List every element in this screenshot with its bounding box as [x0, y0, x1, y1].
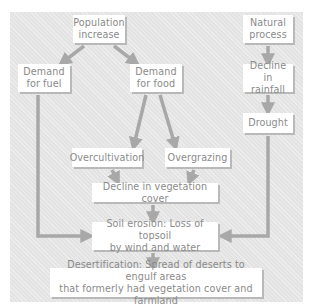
- node-demand-for-fuel: Demand for fuel: [18, 64, 70, 92]
- node-population-increase: Population increase: [73, 15, 125, 43]
- node-demand-for-food: Demand for food: [130, 64, 182, 92]
- desertification-flowchart: Population increase Natural process Dema…: [0, 0, 312, 308]
- arrow-food-to-overgrazing: [160, 95, 175, 145]
- node-soil-erosion: Soil erosion: Loss of topsoil by wind an…: [92, 222, 218, 250]
- arrow-population-to-food: [114, 46, 135, 62]
- arrow-population-to-fuel: [63, 46, 84, 62]
- arrow-food-to-overcultivation: [134, 95, 146, 145]
- arrow-overcultivation-to-vegetation: [112, 170, 117, 180]
- arrow-drought-to-soil: [224, 136, 268, 236]
- node-overgrazing: Overgrazing: [165, 148, 230, 167]
- node-desertification: Desertification: Spread of deserts to en…: [50, 268, 262, 297]
- node-decline-in-vegetation-cover: Decline in vegetation cover: [92, 183, 218, 202]
- node-overcultivation: Overcultivation: [72, 148, 142, 167]
- node-natural-process: Natural process: [243, 15, 293, 43]
- arrow-overgrazing-to-vegetation: [190, 170, 194, 180]
- node-decline-in-rainfall: Decline in rainfall: [243, 64, 293, 92]
- node-drought: Drought: [243, 113, 293, 133]
